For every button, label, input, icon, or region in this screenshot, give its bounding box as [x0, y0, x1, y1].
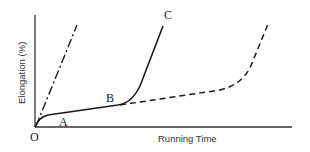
creep-diagram: O A B C Running Time Elongation (%) — [0, 0, 310, 152]
y-axis-label: Elongation (%) — [16, 42, 27, 104]
point-a-label: A — [59, 115, 68, 129]
dashed-creep-curve — [120, 24, 268, 105]
steep-dash-dot-curve — [36, 25, 77, 126]
x-axis-label: Running Time — [158, 133, 217, 144]
origin-label: O — [30, 130, 39, 144]
point-c-label: C — [164, 8, 172, 22]
solid-creep-curve — [35, 26, 163, 127]
point-b-label: B — [106, 91, 114, 105]
